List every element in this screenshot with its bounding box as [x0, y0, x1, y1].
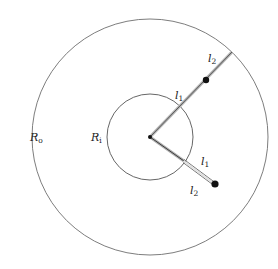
diagram-canvas: Ro Ri l1 l2 l1 l2: [0, 0, 278, 269]
lower-bead: [211, 180, 218, 187]
upper-l1-label: l1: [175, 89, 183, 103]
center-pivot: [148, 135, 152, 139]
outer-radius-label: Ro: [29, 131, 43, 145]
lower-l2-label: l2: [190, 184, 199, 198]
inner-radius-label: Ri: [90, 131, 102, 145]
upper-l2-label: l2: [208, 52, 217, 66]
upper-bead: [203, 77, 209, 83]
lower-l1-label: l1: [201, 155, 209, 169]
